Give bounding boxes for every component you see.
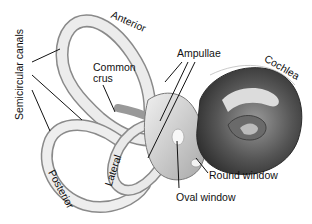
inner-ear-diagram: Semicircular canals Anterior Common crus…	[0, 0, 312, 224]
label-oval-window: Oval window	[176, 192, 236, 203]
oval-window-shape	[172, 129, 184, 145]
label-common-crus-line2: crus	[93, 73, 136, 84]
label-semicircular-canals: Semicircular canals	[14, 29, 25, 120]
label-round-window: Round window	[209, 170, 278, 181]
label-ampullae: Ampullae	[177, 48, 221, 59]
cochlea-shape	[197, 65, 302, 174]
label-common-crus: Common crus	[93, 62, 136, 84]
inner-ear-illustration	[0, 0, 312, 224]
